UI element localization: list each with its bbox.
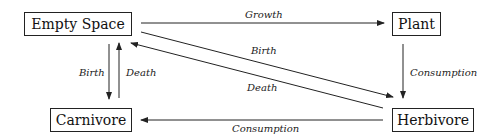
- node-empty-space: Empty Space: [24, 12, 132, 36]
- ecosystem-diagram: Empty Space Plant Carnivore Herbivore Gr…: [0, 0, 497, 139]
- edge-label-plant-herbivore: Consumption: [410, 68, 477, 78]
- edge-label-herbivore-carnivore: Consumption: [232, 124, 299, 134]
- node-plant-label: Plant: [398, 16, 435, 32]
- edge-label-carnivore-birth: Birth: [79, 68, 105, 78]
- node-plant: Plant: [392, 12, 441, 36]
- node-herbivore-label: Herbivore: [397, 112, 469, 128]
- node-carnivore-label: Carnivore: [56, 112, 127, 128]
- node-herbivore: Herbivore: [392, 108, 474, 132]
- node-carnivore: Carnivore: [50, 108, 132, 132]
- edge-label-carnivore-death: Death: [126, 68, 156, 78]
- node-empty-space-label: Empty Space: [31, 16, 124, 32]
- edge-label-growth: Growth: [245, 10, 283, 20]
- edge-label-herbivore-death: Death: [247, 83, 277, 93]
- edge-label-herbivore-birth: Birth: [251, 46, 277, 56]
